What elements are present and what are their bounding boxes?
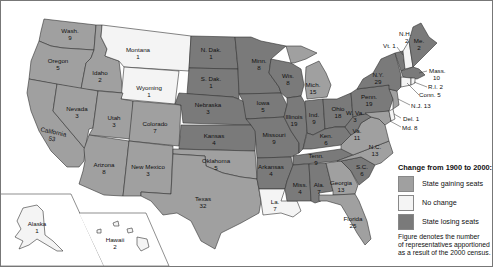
svg-text:Mass.10: Mass.10 [429, 67, 446, 81]
legend-swatch-no-change [398, 195, 414, 211]
state-nebraska [175, 93, 251, 125]
legend-note-line: Figure denotes the number [398, 233, 493, 241]
legend-title: Change from 1900 to 2000: [398, 163, 493, 172]
svg-text:R.I. 2: R.I. 2 [428, 83, 443, 90]
legend-swatch-gaining [398, 176, 414, 192]
svg-text:Md. 8: Md. 8 [402, 124, 418, 131]
legend-swatch-losing [398, 214, 414, 230]
legend-item-no-change: No change [398, 195, 493, 210]
state-hawaii-kauai [97, 229, 101, 233]
legend-label: No change [422, 198, 457, 207]
svg-text:Vt. 1: Vt. 1 [383, 42, 396, 49]
svg-text:Conn. 5: Conn. 5 [419, 91, 441, 98]
us-apportionment-map: Wash.9 Oregon5 California53 Idaho2 Nevad… [0, 0, 493, 267]
state-mich-up [286, 46, 317, 63]
legend-note: Figure denotes the number of representat… [398, 233, 493, 257]
map-legend: Change from 1900 to 2000: State gaining … [398, 163, 493, 257]
legend-note-line: of representatives apportioned [398, 241, 493, 249]
legend-label: State gaining seats [422, 179, 483, 188]
state-hawaii-maui [127, 228, 133, 233]
legend-note-line: as a result of the 2000 census. [398, 249, 493, 257]
svg-text:N.J. 13: N.J. 13 [411, 102, 431, 109]
state-r-i [411, 78, 415, 85]
legend-item-gaining: State gaining seats [398, 176, 493, 191]
legend-item-losing: State losing seats [398, 214, 493, 229]
state-me [409, 23, 437, 67]
legend-label: State losing seats [422, 217, 479, 226]
svg-text:Del. 1: Del. 1 [403, 115, 420, 122]
